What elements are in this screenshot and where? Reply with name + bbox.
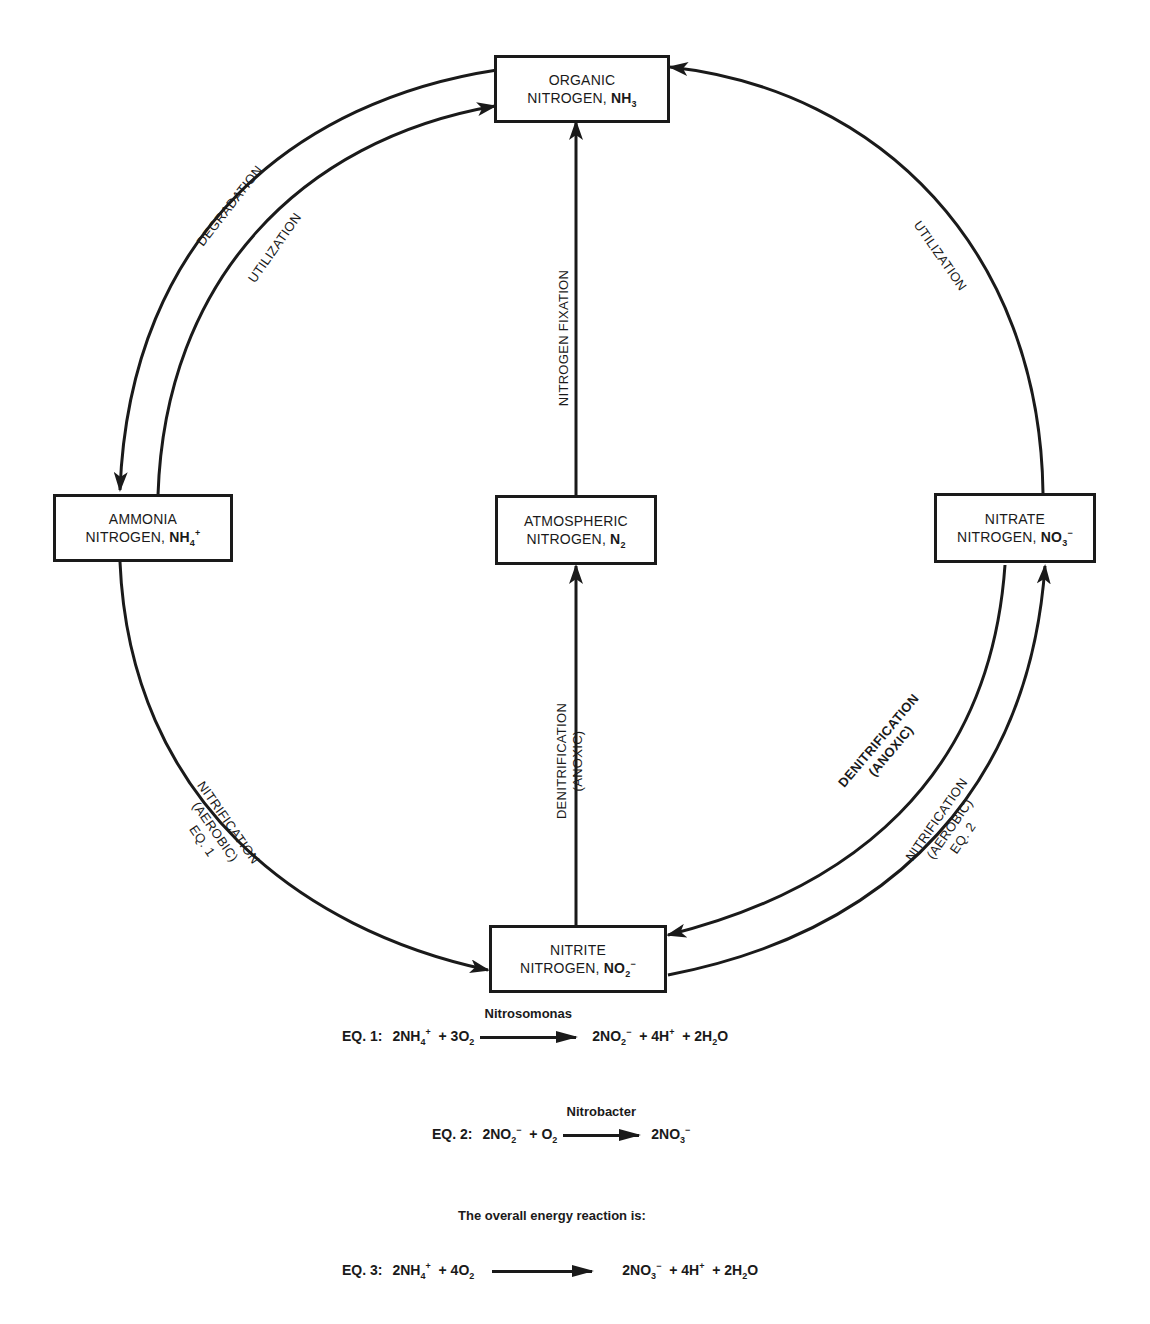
eq1-arrow: Nitrosomonas [480,1028,576,1044]
eq2-label: EQ. 2: [432,1126,472,1142]
eq1-label: EQ. 1: [342,1028,382,1044]
equation-1: EQ. 1: 2NH4+ + 3O2 Nitrosomonas 2NO2− + … [342,1028,728,1044]
ammonia-line2: NITROGEN, [86,529,170,545]
nitrate-formula: NO3− [1041,529,1073,545]
eq2-rhs: 2NO3− [651,1126,690,1142]
eq3-arrow [492,1262,592,1278]
nitrate-nitrogen-box: NITRATE NITROGEN, NO3− [934,493,1096,563]
nitrification-left-arrow [120,562,488,970]
atmospheric-line1: ATMOSPHERIC [524,512,628,530]
atmospheric-line2: NITROGEN, [526,531,610,547]
nitrate-line2: NITROGEN, [957,529,1041,545]
atmospheric-nitrogen-box: ATMOSPHERIC NITROGEN, N2 [495,495,657,565]
eq1-organism: Nitrosomonas [480,1006,576,1021]
eq2-arrow: Nitrobacter [563,1126,639,1142]
overall-reaction-caption: The overall energy reaction is: [458,1208,646,1223]
equation-2: EQ. 2: 2NO2− + O2 Nitrobacter 2NO3− [432,1126,690,1142]
organic-line1: ORGANIC [549,71,616,89]
nitrite-line2: NITROGEN, [520,960,604,976]
ammonia-formula: NH4+ [169,529,200,545]
utilization-right-arrow [670,67,1043,493]
eq2-organism: Nitrobacter [563,1104,639,1119]
eq1-rhs: 2NO2− + 4H+ + 2H2O [592,1028,728,1044]
eq2-lhs: 2NO2− + O2 [482,1126,557,1142]
utilization-left-arrow [158,106,495,495]
eq3-rhs: 2NO3− + 4H+ + 2H2O [622,1262,758,1278]
organic-nitrogen-box: ORGANIC NITROGEN, NH3 [494,55,670,123]
eq1-lhs: 2NH4+ + 3O2 [392,1028,474,1044]
eq3-label: EQ. 3: [342,1262,382,1278]
atmospheric-formula: N2 [610,531,626,547]
equation-3: EQ. 3: 2NH4+ + 4O2 2NO3− + 4H+ + 2H2O [342,1262,758,1278]
organic-formula: NH3 [611,90,637,106]
nitrite-nitrogen-box: NITRITE NITROGEN, NO2− [489,925,667,993]
nitrogen-fixation-label: NITROGEN FIXATION [556,258,572,418]
denitrification-right-arrow [668,565,1005,935]
nitrite-line1: NITRITE [550,941,606,959]
denitrification-center-label: DENITRIFICATION (ANOXIC) [554,691,586,831]
nitrate-line1: NITRATE [985,510,1045,528]
ammonia-nitrogen-box: AMMONIA NITROGEN, NH4+ [53,494,233,562]
organic-line2: NITROGEN, [527,90,611,106]
degradation-arrow [120,70,497,490]
ammonia-line1: AMMONIA [109,510,177,528]
eq3-lhs: 2NH4+ + 4O2 [392,1262,474,1278]
nitrite-formula: NO2− [604,960,636,976]
